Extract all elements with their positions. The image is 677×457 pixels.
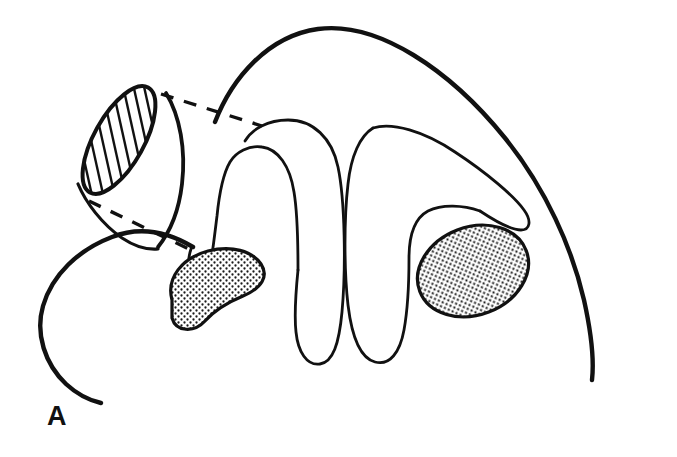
stipple-right-fill: [404, 209, 542, 332]
fold-left-outer-limb: [245, 120, 344, 364]
figure-canvas: A: [0, 0, 677, 457]
stipple-right-group: [404, 209, 542, 332]
stipple-left-group: [171, 249, 265, 330]
cut-tube-cross-section: [55, 46, 195, 215]
lower-left-contour-group: [40, 231, 193, 403]
cut-tube-outer-wall: [158, 93, 183, 247]
lower-left-contour: [40, 231, 193, 403]
fold-left-group: [189, 120, 344, 364]
anatomical-diagram: A: [0, 0, 677, 457]
panel-label-a: A: [47, 401, 67, 431]
